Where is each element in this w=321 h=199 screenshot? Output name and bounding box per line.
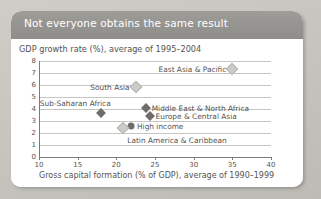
y-tick-label: 4 [32,105,36,113]
chart-card: Not everyone obtains the same result GDP… [11,11,303,187]
x-tick-label: 30 [189,161,198,169]
y-tick-label: 7 [32,69,36,77]
data-point-label: East Asia & Pacific [159,65,227,74]
x-tick-mark [116,157,117,160]
x-tick-label: 40 [267,161,276,169]
gridline [39,85,271,86]
x-tick-label: 10 [35,161,44,169]
x-axis-title: Gross capital formation (% of GDP), aver… [39,171,271,180]
gridline [39,133,271,134]
data-point-label: Sub-Saharan Africa [40,99,111,108]
x-tick-label: 35 [228,161,237,169]
y-tick-label: 1 [32,141,36,149]
y-tick-label: 0 [32,153,36,161]
x-tick-mark [39,157,40,160]
x-tick-mark [78,157,79,160]
x-tick-label: 20 [112,161,121,169]
card-header-bar: Not everyone obtains the same result [11,11,303,39]
y-tick-label: 8 [32,57,36,65]
y-tick-label: 2 [32,129,36,137]
data-point-marker[interactable] [129,80,142,93]
gridline [39,73,271,74]
y-tick-label: 3 [32,117,36,125]
y-axis-line [39,61,40,158]
y-axis-title: GDP growth rate (%), average of 1995–200… [19,44,201,54]
card-title: Not everyone obtains the same result [24,17,228,29]
data-point-label: Latin America & Caribbean [127,136,227,145]
data-point-label: High income [137,121,183,130]
x-tick-mark [232,157,233,160]
y-tick-label: 5 [32,93,36,101]
figure-canvas: Not everyone obtains the same result GDP… [0,0,321,199]
x-tick-label: 15 [73,161,82,169]
y-tick-label: 6 [32,81,36,89]
data-point-label: South Asia [90,82,129,91]
data-point-label: Europe & Central Asia [156,111,237,120]
x-tick-mark [271,157,272,160]
card-body: GDP growth rate (%), average of 1995–200… [11,39,303,187]
plot-area: 012345678 10152025303540 East Asia & Pac… [39,61,271,157]
x-tick-label: 25 [151,161,160,169]
gridline [39,61,271,62]
x-tick-mark [194,157,195,160]
gridline [39,145,271,146]
x-tick-mark [155,157,156,160]
